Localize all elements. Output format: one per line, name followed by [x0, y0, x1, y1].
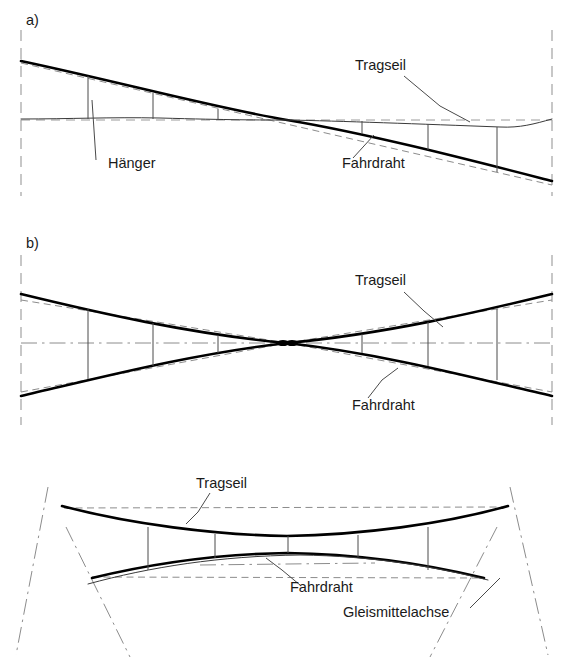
- canvas-background: [0, 0, 574, 657]
- panel-a-id-label: a): [26, 12, 39, 28]
- panel-c-label-fahrdraht: Fahrdraht: [290, 579, 353, 595]
- contact-line-diagram: a) Tragseil Hänger: [0, 0, 574, 657]
- panel-b-crossing-node-right: [286, 340, 298, 346]
- panel-a-label-fahrdraht: Fahrdraht: [342, 155, 405, 171]
- panel-c-label-gleismittelachse: Gleismittelachse: [343, 604, 449, 620]
- panel-b-label-tragseil: Tragseil: [355, 272, 406, 288]
- figure-root: a) Tragseil Hänger: [0, 0, 574, 657]
- panel-c-label-tragseil: Tragseil: [196, 475, 247, 491]
- panel-b-id-label: b): [26, 235, 39, 251]
- panel-a-label-haenger: Hänger: [108, 155, 156, 171]
- panel-a-label-tragseil: Tragseil: [355, 57, 406, 73]
- panel-b-label-fahrdraht: Fahrdraht: [352, 397, 415, 413]
